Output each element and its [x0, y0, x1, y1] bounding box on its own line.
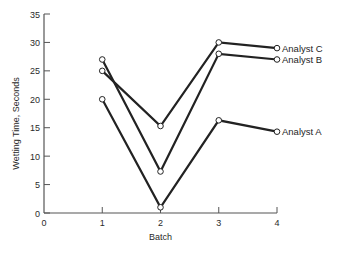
- y-tick-label: 10: [30, 152, 40, 162]
- series-analyst-c: Analyst C: [99, 40, 322, 129]
- series-label: Analyst A: [282, 126, 322, 137]
- series-line: [102, 54, 277, 172]
- y-tick-label: 30: [30, 38, 40, 48]
- data-point-marker: [158, 205, 164, 211]
- x-tick-label: 3: [216, 218, 221, 228]
- line-chart: 0510152025303501234 Analyst AAnalyst BAn…: [0, 0, 340, 256]
- series-label: Analyst B: [282, 54, 322, 65]
- y-tick-label: 15: [30, 123, 40, 133]
- x-tick-label: 4: [274, 218, 279, 228]
- y-tick-label: 25: [30, 66, 40, 76]
- y-tick-label: 0: [35, 209, 40, 219]
- series-group: Analyst AAnalyst BAnalyst C: [99, 40, 322, 210]
- data-point-marker: [99, 96, 105, 102]
- y-axis-title: Wetting Time, Seconds: [11, 77, 21, 170]
- data-point-marker: [158, 169, 164, 175]
- data-point-marker: [216, 118, 222, 124]
- data-point-marker: [216, 51, 222, 57]
- data-point-marker: [274, 129, 280, 135]
- data-point-marker: [274, 57, 280, 63]
- x-axis-title: Batch: [149, 232, 172, 242]
- data-point-marker: [158, 123, 164, 129]
- series-label: Analyst C: [282, 43, 323, 54]
- x-tick-label: 1: [100, 218, 105, 228]
- y-tick-label: 5: [35, 180, 40, 190]
- series-line: [102, 99, 277, 207]
- x-tick-label: 0: [41, 218, 46, 228]
- y-tick-label: 35: [30, 10, 40, 20]
- data-point-marker: [216, 40, 222, 46]
- series-analyst-a: Analyst A: [99, 96, 322, 210]
- data-point-marker: [99, 57, 105, 63]
- data-point-marker: [274, 45, 280, 51]
- y-tick-label: 20: [30, 95, 40, 105]
- x-tick-label: 2: [158, 218, 163, 228]
- data-point-marker: [99, 68, 105, 74]
